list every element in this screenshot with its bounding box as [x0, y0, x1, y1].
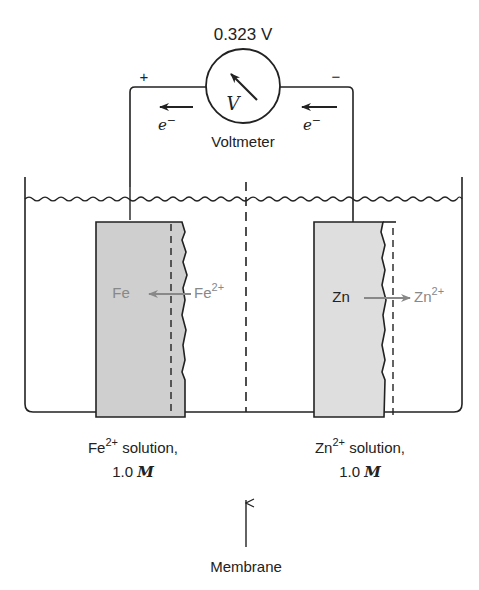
minus-terminal: − — [332, 68, 341, 85]
electron-label-left: e− — [158, 114, 176, 134]
electron-label-right: e− — [303, 114, 321, 134]
voltage-reading: 0.323 V — [214, 25, 273, 44]
zn-concentration: 1.0 M — [339, 463, 381, 481]
left-wire — [130, 87, 207, 187]
zn-ion-label: Zn2+ — [414, 285, 444, 305]
liquid-surface — [25, 197, 462, 201]
voltmeter-symbol: V — [227, 93, 242, 114]
fe-electrode — [96, 222, 187, 417]
fe-solution-label: Fe2+ solution, — [88, 436, 178, 456]
plus-terminal: + — [140, 68, 149, 85]
voltmeter-label: Voltmeter — [211, 133, 274, 150]
zn-electrode — [314, 222, 396, 417]
fe-concentration: 1.0 M — [112, 463, 154, 481]
zn-electrode-label: Zn — [332, 288, 350, 305]
electrochemical-cell-diagram: 0.323 V + − V e− e− Voltmeter Fe Fe2+ Zn… — [0, 0, 479, 590]
membrane-label: Membrane — [210, 558, 282, 575]
voltmeter: V — [206, 49, 280, 123]
zn-solution-label: Zn2+ solution, — [315, 436, 405, 456]
cell-container — [25, 177, 462, 412]
fe-ion-label: Fe2+ — [194, 281, 224, 301]
fe-electrode-label: Fe — [112, 284, 130, 301]
